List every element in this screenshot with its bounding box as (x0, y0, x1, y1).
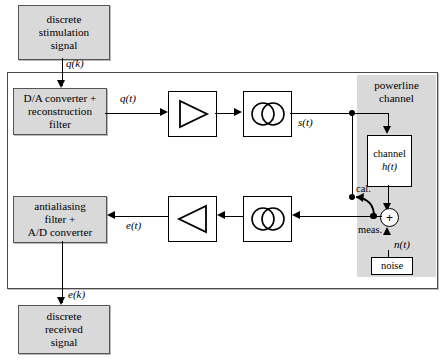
discrete-received-signal-block: discrete received signal (18, 305, 110, 354)
antialiasing-filter-adc-block: antialiasing filter + A/D converter (13, 196, 107, 243)
wire-st (290, 113, 355, 114)
amplifier-triangle-icon-rx (175, 203, 211, 235)
stimulation-line-3: signal (39, 39, 89, 52)
stimulation-line-1: discrete (39, 13, 89, 26)
signal-label-nt: n(t) (394, 238, 410, 250)
wire-tap-to-channel-horizontal (352, 113, 389, 114)
received-line-2: received (45, 323, 83, 336)
da-line-3: filter (24, 118, 97, 131)
antialiasing-line-1: antialiasing (28, 200, 92, 213)
wire-ek (62, 241, 63, 303)
wire-cal-branch (352, 113, 353, 197)
receive-coupling-transformer-block (243, 196, 292, 242)
signal-label-et: e(t) (126, 219, 141, 231)
discrete-stimulation-signal-block: discrete stimulation signal (18, 5, 110, 60)
arrowhead-rx-transformer-to-amp (217, 211, 225, 219)
transmit-amplifier-block (168, 91, 217, 137)
antialiasing-line-3: A/D converter (28, 226, 92, 239)
arrowhead-into-channel (383, 126, 391, 134)
wire-sum-to-rx-transformer (296, 216, 382, 217)
received-line-3: signal (45, 336, 83, 349)
da-line-2: reconstruction (24, 105, 97, 118)
amplifier-triangle-icon (175, 98, 211, 130)
diagram-canvas: discrete stimulation signal q(k) D/A con… (0, 0, 444, 362)
arrowhead-amp-to-transformer-tx (234, 108, 242, 116)
wire-amp-to-transformer-tx (215, 113, 235, 114)
signal-label-st: s(t) (298, 116, 313, 128)
received-line-1: discrete (45, 310, 83, 323)
noise-source-block: noise (371, 257, 413, 275)
stimulation-line-2: stimulation (39, 26, 89, 39)
switch-selector-arc-icon (348, 190, 382, 224)
transformer-coils-icon-rx (248, 205, 288, 233)
receive-amplifier-block (168, 196, 217, 242)
sum-operator-label: + (386, 212, 393, 224)
powerline-label-line-2: channel (357, 92, 436, 105)
channel-transfer-function-block: channel h(t) (367, 135, 412, 187)
channel-transfer-label: h(t) (373, 161, 406, 174)
signal-label-qt: q(t) (120, 92, 136, 104)
powerline-channel-label: powerline channel (357, 79, 436, 105)
arrowhead-noise-to-sum (383, 227, 391, 235)
summing-junction: + (380, 208, 399, 227)
junction-dot-rx-tap (371, 213, 377, 219)
arrowhead-et (107, 211, 115, 219)
arrowhead-qt (160, 108, 168, 116)
wire-et (112, 216, 168, 217)
channel-label: channel (373, 148, 406, 161)
transmit-coupling-transformer-block (243, 91, 292, 137)
da-converter-block: D/A converter + reconstruction filter (13, 88, 107, 135)
transformer-coils-icon (248, 100, 288, 128)
arrowhead-ek (57, 297, 65, 305)
signal-label-ek: e(k) (68, 288, 85, 300)
signal-label-qk: q(k) (66, 57, 84, 69)
wire-qt (105, 113, 162, 114)
arrowhead-into-rx-transformer (292, 211, 300, 219)
antialiasing-line-2: filter + (28, 213, 92, 226)
arrowhead-qk (57, 80, 65, 88)
switch-label-meas: meas. (358, 224, 382, 235)
da-line-1: D/A converter + (24, 92, 97, 105)
powerline-label-line-1: powerline (357, 79, 436, 92)
noise-label: noise (381, 260, 403, 273)
